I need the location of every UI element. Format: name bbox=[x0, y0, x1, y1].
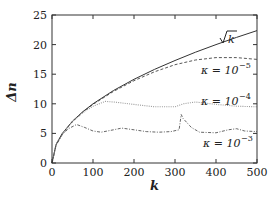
annotation-kappa-4-exponent: −4 bbox=[239, 92, 251, 101]
x-tick-label: 400 bbox=[206, 166, 227, 179]
annotation-sqrt-k-text: k bbox=[228, 33, 235, 46]
x-tick-label: 100 bbox=[83, 166, 104, 179]
x-tick-label: 0 bbox=[49, 166, 56, 179]
y-axis-label: Δn bbox=[4, 82, 19, 103]
y-tick-label: 0 bbox=[40, 157, 47, 170]
y-tick-label: 10 bbox=[33, 98, 47, 111]
y-tick-label: 15 bbox=[33, 68, 47, 81]
y-tick-label: 20 bbox=[33, 39, 47, 52]
y-tick-label: 5 bbox=[40, 127, 47, 140]
annotation-kappa-4: κ = 10 −4 bbox=[200, 92, 251, 108]
annotation-kappa-4-text: κ = 10 bbox=[200, 95, 238, 108]
annotation-kappa-5-exponent: −5 bbox=[239, 61, 251, 70]
annotation-kappa-5-text: κ = 10 bbox=[200, 64, 238, 77]
annotation-kappa-3: κ = 10 −3 bbox=[202, 134, 253, 150]
y-tick-label: 25 bbox=[33, 9, 47, 22]
x-tick-label: 300 bbox=[165, 166, 186, 179]
line-chart: 01002003004005000510152025 k Δn k κ = 10… bbox=[0, 0, 277, 199]
annotation-sqrt-k: k bbox=[220, 31, 237, 46]
x-tick-label: 500 bbox=[247, 166, 268, 179]
annotation-kappa-3-text: κ = 10 bbox=[202, 137, 240, 150]
annotation-kappa-3-exponent: −3 bbox=[241, 134, 253, 143]
x-tick-label: 200 bbox=[124, 166, 145, 179]
x-axis-label: k bbox=[150, 178, 159, 193]
annotation-kappa-5: κ = 10 −5 bbox=[200, 61, 251, 77]
